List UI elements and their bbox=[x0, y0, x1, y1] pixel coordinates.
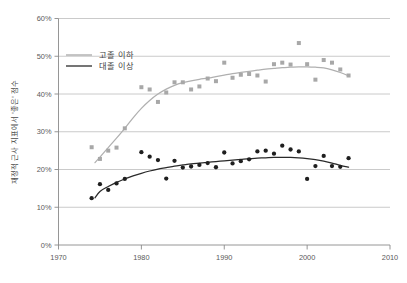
data-point bbox=[98, 157, 102, 161]
data-point bbox=[347, 74, 351, 78]
data-point bbox=[222, 61, 226, 65]
data-point bbox=[197, 84, 201, 88]
chart-plot: 0%10%20%30%40%50%60%19701980199020002010… bbox=[0, 0, 407, 283]
y-tick-label: 60% bbox=[37, 14, 52, 23]
data-point bbox=[148, 87, 152, 91]
data-point bbox=[313, 164, 317, 168]
x-tick-label: 1970 bbox=[50, 253, 66, 262]
y-tick-label: 10% bbox=[37, 203, 52, 212]
data-point bbox=[313, 78, 317, 82]
data-point bbox=[181, 165, 185, 169]
y-tick-label: 0% bbox=[41, 241, 52, 250]
series-2 bbox=[90, 144, 351, 201]
data-point bbox=[106, 188, 110, 192]
data-point bbox=[123, 126, 127, 130]
data-point bbox=[139, 85, 143, 89]
gridlines bbox=[59, 19, 391, 208]
data-point bbox=[338, 67, 342, 71]
data-point bbox=[330, 164, 334, 168]
data-point bbox=[106, 149, 110, 153]
data-point bbox=[305, 62, 309, 66]
y-axis-title: 재정적 근사 지표에서 '좋은' 점수 bbox=[10, 80, 19, 184]
data-point bbox=[288, 147, 292, 151]
x-tick-label: 2000 bbox=[299, 253, 315, 262]
data-point bbox=[280, 144, 284, 148]
y-tick-label: 20% bbox=[37, 165, 52, 174]
labels: 0%10%20%30%40%50%60%19701980199020002010… bbox=[10, 14, 398, 261]
y-tick-label: 50% bbox=[37, 52, 52, 61]
data-point bbox=[123, 177, 127, 181]
data-point bbox=[280, 61, 284, 65]
data-point bbox=[206, 77, 210, 81]
data-point bbox=[98, 182, 102, 186]
data-point bbox=[289, 63, 293, 67]
data-point bbox=[214, 165, 218, 169]
data-point bbox=[189, 164, 193, 168]
data-point bbox=[231, 76, 235, 80]
data-point bbox=[115, 146, 119, 150]
data-point bbox=[206, 161, 210, 165]
x-tick-label: 1990 bbox=[216, 253, 232, 262]
data-point bbox=[230, 161, 234, 165]
data-point bbox=[156, 100, 160, 104]
data-point bbox=[297, 41, 301, 45]
data-point bbox=[173, 80, 177, 84]
data-point bbox=[247, 157, 251, 161]
data-point bbox=[264, 148, 268, 152]
data-point bbox=[181, 80, 185, 84]
data-point bbox=[239, 159, 243, 163]
data-point bbox=[114, 181, 118, 185]
data-point bbox=[322, 154, 326, 158]
data-point bbox=[90, 196, 94, 200]
data-point bbox=[338, 165, 342, 169]
data-point bbox=[305, 177, 309, 181]
data-point bbox=[90, 145, 94, 149]
legend-label-2: 대졸 이상 bbox=[99, 61, 134, 71]
data-point bbox=[297, 149, 301, 153]
x-tick-label: 2010 bbox=[382, 253, 398, 262]
data-point bbox=[330, 61, 334, 65]
data-point bbox=[148, 155, 152, 159]
trend-line bbox=[95, 67, 349, 163]
data-point bbox=[197, 163, 201, 167]
data-point bbox=[255, 74, 259, 78]
x-tick-label: 1980 bbox=[133, 253, 149, 262]
data-point bbox=[346, 156, 350, 160]
data-point bbox=[255, 149, 259, 153]
data-point bbox=[189, 87, 193, 91]
data-point bbox=[172, 159, 176, 163]
data-point bbox=[164, 176, 168, 180]
legend-label-1: 고졸 이하 bbox=[99, 50, 134, 60]
data-point bbox=[139, 150, 143, 154]
data-point bbox=[156, 158, 160, 162]
data-point bbox=[239, 73, 243, 77]
data-point bbox=[322, 58, 326, 62]
y-tick-label: 30% bbox=[37, 127, 52, 136]
data-point bbox=[272, 151, 276, 155]
legend: 고졸 이하대졸 이상 bbox=[66, 50, 134, 71]
data-point bbox=[164, 90, 168, 94]
chart-container: 0%10%20%30%40%50%60%19701980199020002010… bbox=[0, 0, 407, 283]
trend-line bbox=[95, 157, 349, 197]
data-point bbox=[214, 79, 218, 83]
y-tick-label: 40% bbox=[37, 90, 52, 99]
data-point bbox=[247, 72, 251, 76]
data-point bbox=[272, 62, 276, 66]
data-point bbox=[222, 150, 226, 154]
data-point bbox=[264, 80, 268, 84]
